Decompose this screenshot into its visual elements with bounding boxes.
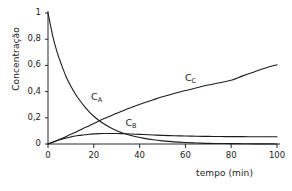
curve-C_A xyxy=(48,13,277,144)
curve-C_B xyxy=(48,133,277,144)
plot-area xyxy=(0,0,292,191)
concentration-vs-time-chart: Concentração tempo (min) 00,20,40,60,81 … xyxy=(0,0,292,191)
